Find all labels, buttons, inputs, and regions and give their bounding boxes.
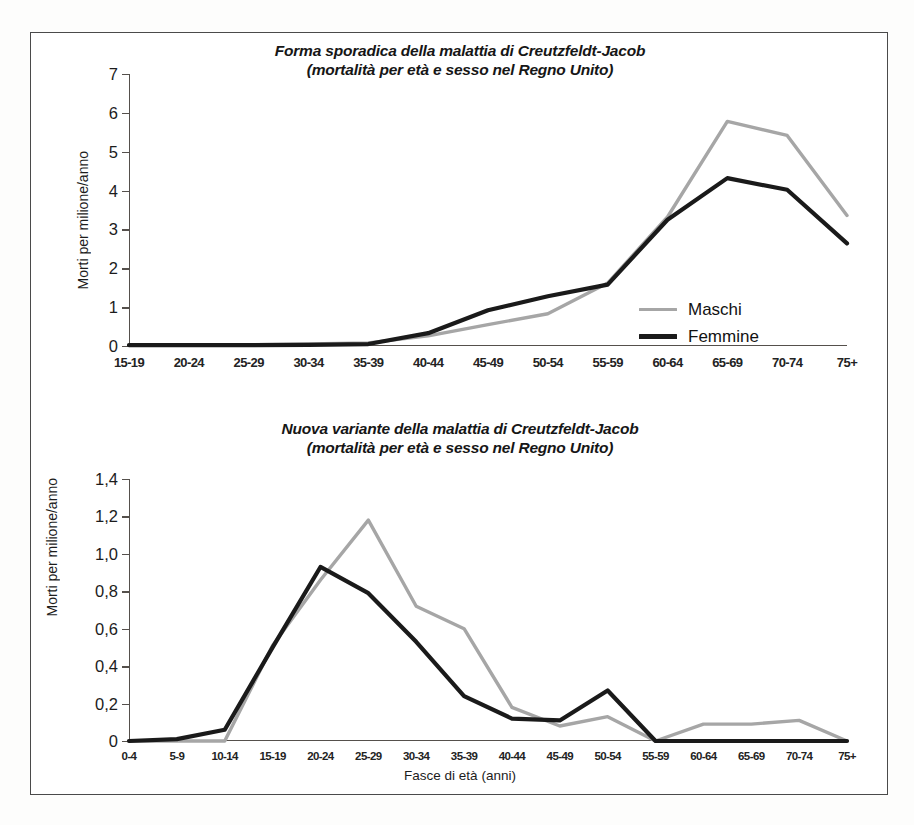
x-tick-label-7: 35-39 bbox=[451, 750, 477, 762]
x-tick-label-1: 5-9 bbox=[169, 750, 184, 762]
y-tick-2 bbox=[122, 268, 129, 269]
x-tick-label-1: 20-24 bbox=[174, 355, 204, 370]
x-tick-label-0: 15-19 bbox=[114, 355, 144, 370]
y-tick-label-5: 1,0 bbox=[95, 544, 118, 563]
y-tick-label-2: 2 bbox=[109, 259, 118, 278]
y-tick-1 bbox=[122, 307, 129, 308]
chart-title-line1: Nuova variante della malattia di Creutzf… bbox=[282, 420, 639, 437]
x-tick-label-14: 70-74 bbox=[786, 750, 812, 762]
legend-swatch-male-icon bbox=[639, 308, 677, 312]
x-tick-label-11: 70-74 bbox=[772, 355, 802, 370]
y-tick-3 bbox=[122, 229, 129, 230]
y-tick-2 bbox=[122, 666, 129, 667]
x-tick-label-10: 65-69 bbox=[712, 355, 742, 370]
y-tick-label-2: 0,4 bbox=[95, 657, 118, 676]
y-tick-label-6: 1,2 bbox=[95, 507, 118, 526]
legend-sporadic: Maschi Femmine bbox=[639, 296, 759, 350]
x-tick-label-4: 20-24 bbox=[307, 750, 333, 762]
x-tick-label-2: 10-14 bbox=[212, 750, 238, 762]
x-tick-label-7: 50-54 bbox=[533, 355, 563, 370]
y-tick-1 bbox=[122, 704, 129, 705]
y-axis-title-sporadic: Morti per milione/anno bbox=[75, 151, 91, 290]
chart-variant-cjd: Nuova variante della malattia di Creutzf… bbox=[31, 403, 889, 796]
chart-sporadic-cjd: Forma sporadica della malattia di Creutz… bbox=[31, 33, 889, 403]
x-tick-label-5: 25-29 bbox=[355, 750, 381, 762]
y-tick-7 bbox=[122, 74, 129, 75]
figure-page: Forma sporadica della malattia di Creutz… bbox=[0, 0, 914, 825]
x-tick-label-0: 0-4 bbox=[122, 750, 137, 762]
y-tick-label-7: 1,4 bbox=[95, 470, 118, 489]
x-tick-label-6: 30-34 bbox=[403, 750, 429, 762]
y-tick-label-3: 0,6 bbox=[95, 619, 118, 638]
y-tick-label-1: 1 bbox=[109, 298, 118, 317]
chart-title-line1: Forma sporadica della malattia di Creutz… bbox=[275, 42, 646, 59]
y-tick-label-0: 0 bbox=[109, 337, 118, 356]
x-tick-label-3: 30-34 bbox=[293, 355, 323, 370]
y-tick-label-6: 6 bbox=[109, 103, 118, 122]
y-tick-4 bbox=[122, 591, 129, 592]
y-tick-6 bbox=[122, 113, 129, 114]
x-tick-label-8: 55-59 bbox=[593, 355, 623, 370]
series-layer bbox=[129, 479, 847, 741]
chart-title-variant: Nuova variante della malattia di Creutzf… bbox=[31, 419, 889, 457]
x-tick-label-2: 25-29 bbox=[234, 355, 264, 370]
y-axis-title-variant: Morti per milione/anno bbox=[44, 478, 60, 617]
y-tick-label-7: 7 bbox=[109, 65, 118, 84]
x-tick-label-6: 45-49 bbox=[473, 355, 503, 370]
x-tick-label-5: 40-44 bbox=[413, 355, 443, 370]
legend-label-female: Femmine bbox=[688, 328, 759, 345]
y-tick-label-5: 5 bbox=[109, 142, 118, 161]
y-tick-label-1: 0,2 bbox=[95, 694, 118, 713]
y-tick-5 bbox=[122, 152, 129, 153]
y-tick-4 bbox=[122, 191, 129, 192]
x-tick-label-8: 40-44 bbox=[499, 750, 525, 762]
y-tick-5 bbox=[122, 554, 129, 555]
y-tick-label-3: 3 bbox=[109, 220, 118, 239]
legend-item-female: Femmine bbox=[639, 323, 759, 350]
legend-label-male: Maschi bbox=[688, 301, 742, 318]
y-tick-7 bbox=[122, 479, 129, 480]
x-tick-label-9: 60-64 bbox=[652, 355, 682, 370]
y-tick-label-0: 0 bbox=[109, 732, 118, 751]
legend-swatch-female-icon bbox=[639, 334, 677, 339]
x-tick-label-11: 55-59 bbox=[642, 750, 668, 762]
x-tick-label-15: 75+ bbox=[838, 750, 856, 762]
plot-area-variant: 00,20,40,60,81,01,21,40-45-910-1415-1920… bbox=[129, 479, 847, 741]
figure-frame: Forma sporadica della malattia di Creutz… bbox=[30, 32, 888, 795]
x-tick-label-4: 35-39 bbox=[353, 355, 383, 370]
x-axis-title-variant: Fasce di età (anni) bbox=[31, 768, 889, 783]
chart-title-line2: (mortalità per età e sesso nel Regno Uni… bbox=[31, 438, 889, 457]
x-tick-label-10: 50-54 bbox=[594, 750, 620, 762]
x-tick-label-13: 65-69 bbox=[738, 750, 764, 762]
y-tick-3 bbox=[122, 629, 129, 630]
x-tick-label-3: 15-19 bbox=[259, 750, 285, 762]
x-tick-label-12: 60-64 bbox=[690, 750, 716, 762]
x-tick-label-12: 75+ bbox=[837, 355, 857, 370]
legend-item-male: Maschi bbox=[639, 296, 759, 323]
y-tick-6 bbox=[122, 516, 129, 517]
y-tick-label-4: 4 bbox=[109, 181, 118, 200]
x-tick-label-9: 45-49 bbox=[547, 750, 573, 762]
y-tick-label-4: 0,8 bbox=[95, 582, 118, 601]
